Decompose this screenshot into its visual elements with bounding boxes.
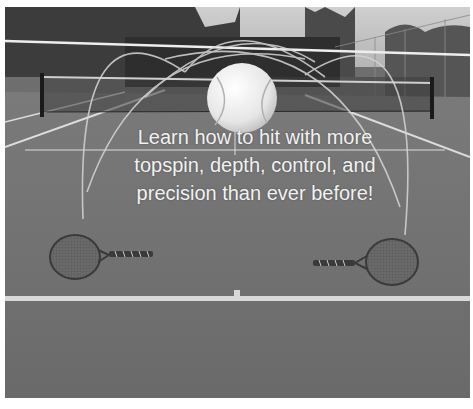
headline: Learn how to hit with more topspin, dept…: [105, 123, 405, 207]
tennis-promo-image: Learn how to hit with more topspin, dept…: [5, 7, 470, 398]
headline-line-1: Learn how to hit with more: [105, 123, 405, 151]
headline-line-3: precision than ever before!: [105, 179, 405, 207]
headline-line-2: topspin, depth, control, and: [105, 151, 405, 179]
